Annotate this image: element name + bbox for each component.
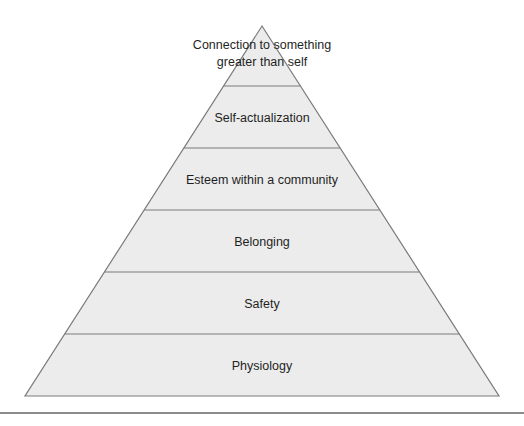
bottom-rule: [0, 412, 524, 414]
tier-label-level-1: Physiology: [232, 359, 293, 373]
tier-label-level-3: Belonging: [234, 235, 290, 249]
tier-label-level-4: Esteem within a community: [186, 173, 339, 187]
tier-label-line: Self-actualization: [214, 111, 309, 125]
tier-label-line: Esteem within a community: [186, 173, 339, 187]
needs-pyramid-diagram: Connection to somethinggreater than self…: [0, 0, 524, 426]
tier-label-line: greater than self: [217, 55, 308, 69]
tier-label-line: Safety: [244, 297, 280, 311]
tier-label-level-2: Safety: [244, 297, 280, 311]
tier-label-line: Belonging: [234, 235, 290, 249]
tier-label-level-5: Self-actualization: [214, 111, 309, 125]
tier-label-line: Connection to something: [193, 38, 331, 52]
tier-label-line: Physiology: [232, 359, 293, 373]
pyramid-shape: [25, 26, 499, 396]
